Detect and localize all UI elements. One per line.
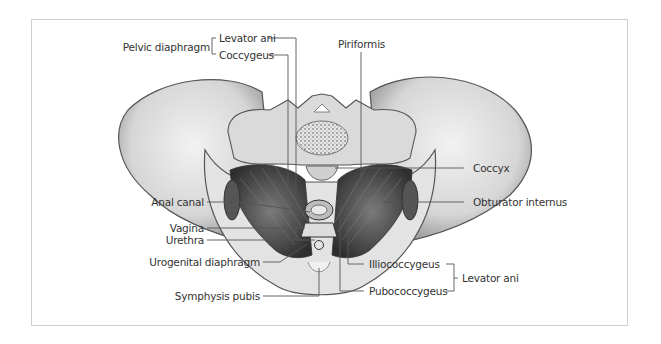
label-symphysis-pubis: Symphysis pubis <box>80 290 260 302</box>
label-pubococcygeus: Pubococcygeus <box>369 285 448 297</box>
label-levator-ani-bottom: Levator ani <box>462 272 519 284</box>
label-coccyx: Coccyx <box>473 162 510 174</box>
vertebral-body <box>296 121 348 155</box>
label-levator-ani-top: Levator ani <box>219 32 276 44</box>
urethra <box>315 241 324 250</box>
obturator-right <box>402 180 418 220</box>
obturator-left <box>224 180 240 220</box>
label-pelvic-diaphragm: Pelvic diaphragm <box>106 41 210 53</box>
label-coccygeus: Coccygeus <box>219 49 274 61</box>
vagina <box>301 223 337 237</box>
coccyx-bone <box>306 166 338 180</box>
label-vagina: Vagina <box>100 222 204 234</box>
label-illiococcygeus: Illiococcygeus <box>369 258 440 270</box>
label-obturator-internus: Obturator internus <box>473 196 567 208</box>
label-piriformis: Piriformis <box>338 38 385 50</box>
label-urethra: Urethra <box>100 234 204 246</box>
label-anal-canal: Anal canal <box>100 196 204 208</box>
label-urogenital-diaphragm: Urogenital diaphragm <box>80 256 260 268</box>
